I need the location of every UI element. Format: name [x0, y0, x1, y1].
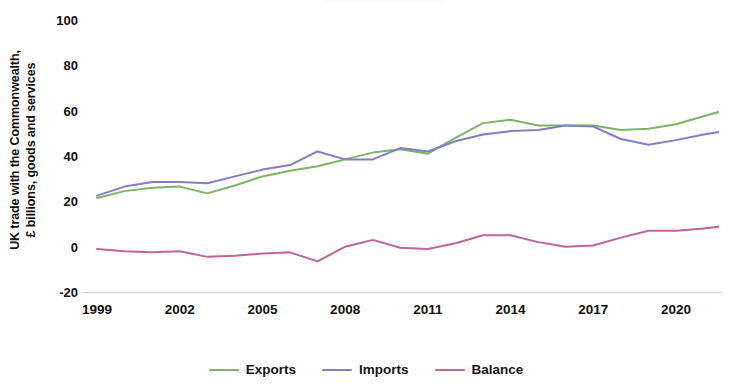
- y-tick-label: 40: [44, 150, 78, 163]
- x-axis-tick-labels: 19992002200520082011201420172020: [0, 303, 732, 325]
- series-line-imports: [97, 125, 719, 195]
- x-tick-label: 2020: [661, 303, 691, 317]
- y-axis-tick-labels: 100806040200-20: [44, 0, 78, 389]
- series-line-exports: [97, 108, 719, 198]
- y-tick-label: 20: [44, 195, 78, 208]
- x-tick-label: 2008: [330, 303, 360, 317]
- x-tick-label: 1999: [82, 303, 112, 317]
- y-tick-label: -20: [44, 286, 78, 299]
- chart-legend: ExportsImportsBalance: [0, 358, 732, 382]
- line-chart: UK trade with the Commonwealth, £ billio…: [0, 0, 732, 389]
- legend-label: Balance: [472, 363, 524, 377]
- legend-label: Imports: [359, 363, 409, 377]
- legend-item-exports[interactable]: Exports: [209, 363, 296, 377]
- legend-item-imports[interactable]: Imports: [322, 363, 409, 377]
- y-axis-title: UK trade with the Commonwealth, £ billio…: [0, 0, 46, 300]
- series-canvas: [83, 14, 719, 298]
- x-tick-label: 2011: [413, 303, 442, 317]
- y-tick-label: 60: [44, 105, 78, 118]
- legend-swatch-exports: [209, 369, 239, 372]
- series-line-balance: [97, 225, 719, 261]
- legend-label: Exports: [246, 363, 296, 377]
- y-tick-label: 0: [44, 241, 78, 254]
- x-axis-line: [83, 292, 722, 293]
- y-tick-label: 80: [44, 59, 78, 72]
- y-tick-label: 100: [44, 14, 78, 27]
- cropped-header-artifact-2: [378, 0, 426, 3]
- legend-item-balance[interactable]: Balance: [435, 363, 524, 377]
- x-tick-label: 2005: [247, 303, 277, 317]
- plot-area: [83, 14, 719, 298]
- x-tick-label: 2014: [496, 303, 526, 317]
- legend-swatch-balance: [435, 369, 465, 372]
- x-tick-label: 2017: [578, 303, 608, 317]
- x-tick-label: 2002: [165, 303, 195, 317]
- legend-swatch-imports: [322, 369, 352, 372]
